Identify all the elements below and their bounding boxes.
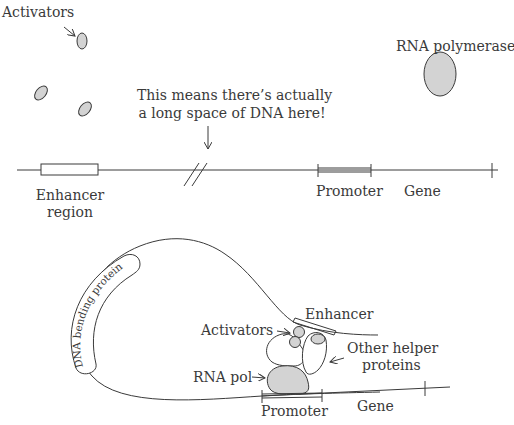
rna-polymerase-label: RNA polymerase bbox=[396, 38, 514, 55]
dna-break-marks bbox=[184, 163, 207, 186]
rna-polymerase-free bbox=[424, 52, 456, 96]
rna-pol-arrow bbox=[252, 377, 265, 378]
annotation-line-2: a long space of DNA here! bbox=[137, 105, 327, 122]
enhancer-label-bottom: Enhancer bbox=[305, 306, 373, 323]
activators-label-bottom: Activators bbox=[201, 322, 273, 339]
activator-bound-2 bbox=[290, 337, 301, 348]
gene-regulation-diagram: DNA bending protein Activators RNA polym… bbox=[0, 0, 514, 425]
activators-arrow bbox=[64, 27, 75, 36]
other-helper-proteins-label-2: proteins bbox=[362, 357, 421, 374]
activators-bound-arrow bbox=[277, 331, 290, 333]
enhancer-region-box bbox=[41, 164, 98, 175]
other-helper-proteins-label-1: Other helper bbox=[347, 340, 438, 357]
annotation-line-1: This means there’s actually bbox=[137, 87, 327, 104]
activator-bound-3 bbox=[311, 334, 325, 344]
promoter-label-top: Promoter bbox=[316, 183, 383, 200]
activator-free-3 bbox=[76, 100, 94, 119]
rna-pol-bound bbox=[267, 366, 308, 395]
activator-free-1 bbox=[77, 33, 87, 49]
rna-pol-label: RNA pol bbox=[193, 369, 252, 386]
promoter-label-bottom: Promoter bbox=[261, 403, 328, 420]
gene-label-bottom: Gene bbox=[357, 398, 394, 415]
enhancer-region-label-1: Enhancer bbox=[30, 187, 110, 204]
gene-label-top: Gene bbox=[404, 183, 441, 200]
enhancer-region-label-2: region bbox=[30, 204, 110, 221]
helper-proteins-arrow bbox=[330, 358, 344, 362]
activators-label: Activators bbox=[2, 4, 74, 21]
activator-bound-1 bbox=[294, 327, 305, 338]
activator-free-2 bbox=[32, 84, 50, 103]
